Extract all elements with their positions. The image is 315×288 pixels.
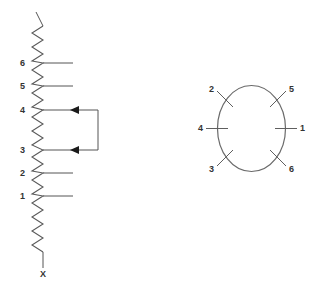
tap-5-label: 5 [20, 81, 25, 91]
terminal-1: 1 [275, 123, 305, 133]
tap-2-label: 2 [20, 168, 25, 178]
terminal-3-tick [217, 150, 233, 166]
winding-top-lead [36, 12, 43, 26]
terminal-2-tick [217, 91, 233, 107]
tap-3-label: 3 [20, 145, 25, 155]
tap-6-label: 6 [20, 58, 25, 68]
jumper-arrowhead-lower [70, 146, 79, 154]
zigzag-winding: 6 5 4 3 2 [20, 12, 98, 279]
winding-coil-body [32, 26, 43, 252]
terminal-6-tick [270, 150, 286, 166]
terminal-4: 4 [198, 123, 228, 133]
tap-6: 6 [20, 58, 73, 68]
terminal-6-label: 6 [289, 164, 294, 174]
tap-1-label: 1 [20, 191, 25, 201]
schematic-drawing: 6 5 4 3 2 [0, 0, 315, 288]
tap-4: 4 [20, 105, 98, 115]
terminal-1-label: 1 [300, 123, 305, 133]
terminal-6: 6 [270, 150, 294, 174]
tap-4-label: 4 [20, 105, 25, 115]
terminal-block: 1 4 2 5 3 [198, 84, 305, 174]
tap-5: 5 [20, 81, 73, 91]
terminal-4-label: 4 [198, 123, 203, 133]
terminal-x-label: X [40, 269, 46, 279]
tap-1: 1 [20, 191, 73, 201]
terminal-2-label: 2 [209, 84, 214, 94]
jumper-arrowhead-upper [70, 106, 79, 114]
terminal-5-tick [270, 91, 286, 107]
tap-2: 2 [20, 168, 73, 178]
terminal-5-label: 5 [289, 84, 294, 94]
tap-jumper-link [70, 106, 98, 154]
diagram-canvas: 6 5 4 3 2 [0, 0, 315, 288]
terminal-3: 3 [209, 150, 233, 174]
tap-3: 3 [20, 145, 98, 155]
terminal-3-label: 3 [209, 164, 214, 174]
